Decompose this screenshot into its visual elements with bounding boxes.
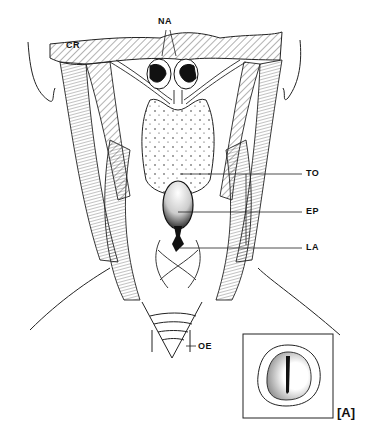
anatomical-diagram: NA CR TO EP LA OE [A]: [0, 0, 372, 435]
label-cr: CR: [66, 40, 80, 50]
label-oe: OE: [198, 341, 212, 351]
label-na: NA: [158, 16, 172, 26]
label-la: LA: [306, 242, 319, 252]
cranial-band: [50, 32, 282, 65]
inset-panel: [243, 334, 333, 418]
epiglottis: [163, 181, 193, 229]
diagram-drawing: [0, 0, 372, 435]
oesophagus: [142, 302, 202, 358]
nares: [147, 59, 198, 89]
label-ep: EP: [306, 206, 319, 216]
panel-label: [A]: [337, 405, 355, 420]
label-to: TO: [306, 168, 319, 178]
